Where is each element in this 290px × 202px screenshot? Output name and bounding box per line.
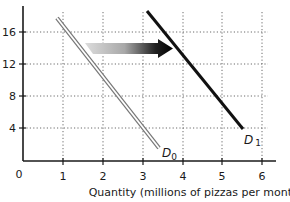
origin-label: 0 [16,168,23,181]
d1-label: D1 [244,133,261,148]
x-tick-labels: 0 1 2 3 4 5 6 [16,168,266,183]
shift-arrow [85,39,173,58]
y-tick-8: 8 [9,90,16,103]
grid [23,12,268,161]
x-axis-title: Quantity (millions of pizzas per month) [89,186,290,199]
x-tick-6: 6 [259,170,266,183]
demand-shift-chart: 16 12 8 4 0 1 2 3 4 5 6 Quantity (millio… [0,0,290,202]
y-tick-12: 12 [2,58,16,71]
y-tick-labels: 16 12 8 4 [2,26,16,135]
demand-curve-d1 [147,11,243,129]
x-tick-5: 5 [219,170,226,183]
x-tick-3: 3 [140,170,147,183]
y-tick-16: 16 [2,26,16,39]
y-tick-4: 4 [9,122,16,135]
x-tick-1: 1 [60,170,67,183]
x-tick-4: 4 [180,170,187,183]
d0-label: D0 [162,146,177,162]
x-tick-2: 2 [100,170,107,183]
